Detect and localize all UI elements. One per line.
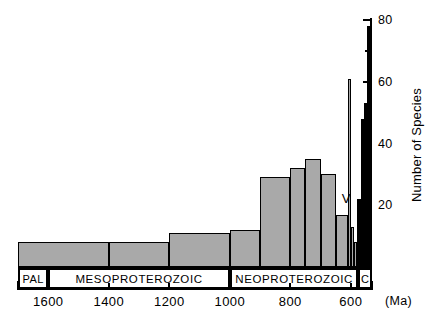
histogram-bar — [290, 168, 305, 267]
y-axis-minor-tick — [365, 235, 370, 237]
y-axis-tick-label: 60 — [378, 76, 393, 89]
histogram-bar — [109, 242, 170, 267]
x-axis-tick — [168, 283, 170, 290]
histogram-bar — [230, 230, 260, 267]
histogram-bar — [169, 233, 230, 267]
y-axis-tick — [363, 81, 370, 83]
histogram-bar — [321, 174, 336, 267]
x-axis-tick-label: 1200 — [154, 294, 185, 309]
histogram-bar — [18, 242, 109, 267]
era-band: PAL — [18, 268, 48, 289]
y-axis-tick — [363, 204, 370, 206]
histogram-bar — [305, 159, 320, 267]
y-axis-tick-label: 40 — [378, 138, 393, 151]
x-axis-tick — [108, 283, 110, 290]
y-axis-tick — [363, 143, 370, 145]
histogram-bar — [336, 215, 349, 267]
y-axis-title: Number of Species — [409, 40, 424, 250]
x-axis-tick-label: 600 — [339, 294, 362, 309]
x-axis-unit-label: (Ma) — [385, 294, 412, 308]
y-axis-line — [370, 18, 372, 268]
y-axis-minor-tick — [365, 112, 370, 114]
y-axis-tick-label: 20 — [378, 199, 393, 212]
histogram-bar — [348, 79, 351, 267]
y-axis-tick-label: 80 — [378, 14, 393, 27]
y-axis-minor-tick — [365, 50, 370, 52]
era-band: MESOPROTEROZOIC — [48, 268, 230, 289]
histogram-bar — [260, 177, 290, 267]
x-axis-tick — [350, 283, 352, 290]
x-axis-tick-label: 1600 — [33, 294, 64, 309]
era-strip: PALMESOPROTEROZOICNEOPROTEROZOICC — [18, 268, 372, 289]
annotation-label: V — [342, 191, 351, 206]
y-axis-tick — [363, 19, 370, 21]
era-band: NEOPROTEROZOIC — [230, 268, 359, 289]
era-band: C — [358, 268, 372, 289]
x-axis-tick — [289, 283, 291, 290]
x-axis-tick — [47, 283, 49, 290]
x-axis-tick — [229, 283, 231, 290]
species-histogram-figure: 20406080Number of SpeciesPALMESOPROTEROZ… — [0, 0, 447, 329]
x-axis-tick-label: 800 — [279, 294, 302, 309]
x-axis-tick-label: 1400 — [94, 294, 125, 309]
x-axis-tick-label: 1000 — [215, 294, 246, 309]
x-axis-end-cap — [17, 281, 19, 290]
y-axis-minor-tick — [365, 173, 370, 175]
plot-area: 20406080Number of SpeciesPALMESOPROTEROZ… — [0, 0, 447, 329]
x-axis-end-cap — [371, 281, 373, 290]
